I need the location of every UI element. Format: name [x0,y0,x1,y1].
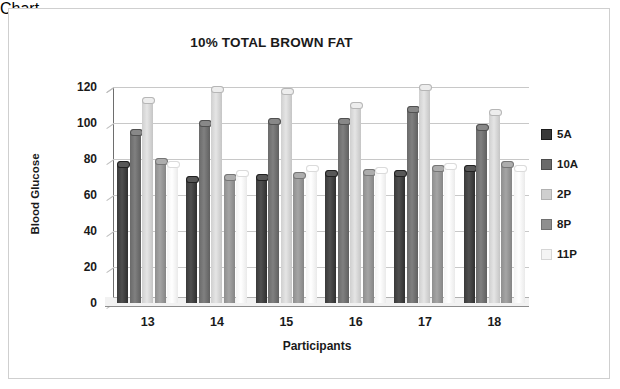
x-axis-tick-13: 13 [128,315,168,329]
bar-body [199,123,210,303]
bar-10A-16[interactable] [338,121,349,303]
bar-8P-14[interactable] [224,177,235,303]
x-axis-tick-17: 17 [405,315,445,329]
bar-cap [236,170,249,177]
bar-cap [363,169,376,176]
legend-label: 8P [557,218,571,230]
bar-cap [306,165,319,172]
bar-body [306,168,317,303]
bar-2P-16[interactable] [350,105,361,303]
legend-item-10A[interactable]: 10A [541,149,611,179]
bar-body [130,132,141,303]
legend-swatch-icon [541,189,552,200]
legend-label: 10A [557,158,578,170]
chart-legend: 5A10A2P8P11P [541,119,611,269]
bar-body [432,168,443,303]
y-axis-title: Blood Glucose [27,129,43,259]
bar-5A-18[interactable] [464,168,475,303]
bar-body [117,164,128,303]
bar-body [419,87,430,303]
legend-label: 2P [557,188,571,200]
legend-item-8P[interactable]: 8P [541,209,611,239]
y-axis-tick-40: 40 [57,224,97,238]
bar-body [325,173,336,303]
bar-body [186,179,197,303]
bar-10A-15[interactable] [268,121,279,303]
bar-body [211,89,222,303]
x-axis-tick-labels: 131415161718 [105,315,529,333]
bar-10A-18[interactable] [476,127,487,303]
bar-5A-17[interactable] [394,173,405,303]
bar-11P-14[interactable] [236,173,247,303]
bar-5A-15[interactable] [256,177,267,303]
legend-item-2P[interactable]: 2P [541,179,611,209]
bar-10A-13[interactable] [130,132,141,303]
bar-body [363,172,374,303]
bar-cap [501,161,514,168]
legend-item-11P[interactable]: 11P [541,239,611,269]
y-axis-tick-0: 0 [57,296,97,310]
bar-cap [489,109,502,116]
x-axis-tick-14: 14 [197,315,237,329]
bar-group-18 [460,87,529,303]
y-axis-tick-100: 100 [57,116,97,130]
bar-10A-17[interactable] [407,109,418,303]
legend-label: 11P [557,248,577,260]
bar-cap [419,84,432,91]
bar-2P-15[interactable] [281,91,292,303]
bar-cap [444,163,457,170]
bar-body [464,168,475,303]
bar-8P-16[interactable] [363,172,374,303]
y-axis-tick-labels: 120100806040200 [53,81,97,309]
y-axis-tick-80: 80 [57,152,97,166]
x-axis-title: Participants [105,339,529,353]
bar-group-16 [321,87,390,303]
bar-11P-18[interactable] [514,168,525,303]
bar-body [256,177,267,303]
bar-2P-13[interactable] [142,100,153,303]
bar-cap [338,118,351,125]
bar-body [142,100,153,303]
bar-2P-18[interactable] [489,112,500,303]
bar-11P-15[interactable] [306,168,317,303]
bar-body [224,177,235,303]
bar-11P-16[interactable] [375,170,386,303]
bar-2P-17[interactable] [419,87,430,303]
bar-5A-13[interactable] [117,164,128,303]
bar-series-container [113,87,529,303]
chart-title: 10% TOTAL BROWN FAT [9,35,534,50]
bar-8P-15[interactable] [293,175,304,303]
bar-5A-16[interactable] [325,173,336,303]
bar-11P-13[interactable] [167,164,178,303]
bar-body [444,166,455,303]
bar-10A-14[interactable] [199,123,210,303]
bar-cap [476,124,489,131]
bar-body [338,121,349,303]
x-axis-tick-16: 16 [336,315,376,329]
bar-cap [268,118,281,125]
bar-cap [211,86,224,93]
x-axis-tick-15: 15 [266,315,306,329]
y-axis-tick-60: 60 [57,188,97,202]
bar-8P-13[interactable] [155,161,166,303]
bar-8P-17[interactable] [432,168,443,303]
bar-body [514,168,525,303]
bar-cap [464,165,477,172]
bar-group-14 [182,87,251,303]
bar-2P-14[interactable] [211,89,222,303]
bar-8P-18[interactable] [501,164,512,303]
bar-body [394,173,405,303]
legend-item-5A[interactable]: 5A [541,119,611,149]
chart-frame: 10% TOTAL BROWN FAT Blood Glucose 120100… [8,8,610,379]
legend-label: 5A [557,128,572,140]
bar-5A-14[interactable] [186,179,197,303]
bar-body [281,91,292,303]
bar-cap [199,120,212,127]
bar-cap [256,174,269,181]
bar-cap [394,170,407,177]
bar-cap [155,158,168,165]
bar-group-17 [390,87,459,303]
bar-11P-17[interactable] [444,166,455,303]
legend-swatch-icon [541,249,552,260]
y-axis-tick-20: 20 [57,260,97,274]
